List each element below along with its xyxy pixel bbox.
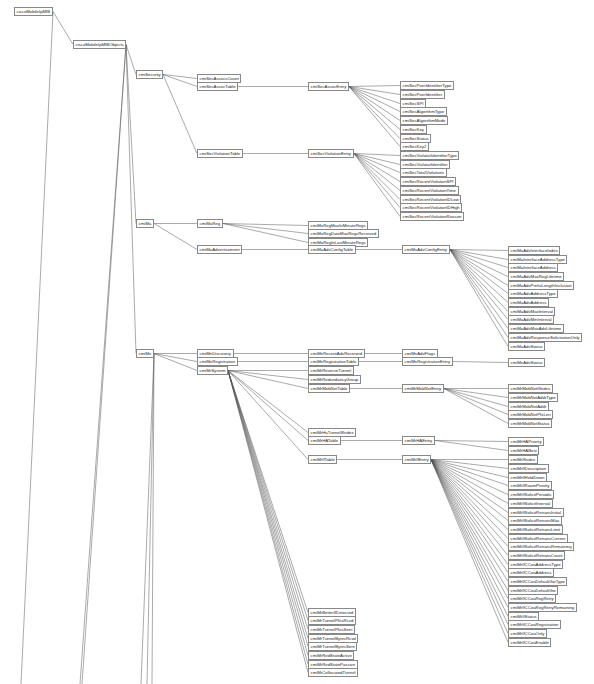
- tree-edge: [431, 460, 508, 565]
- tree-node-i5: cmiMrIfSolicitPeriodic: [508, 490, 554, 499]
- tree-edge: [444, 389, 508, 424]
- tree-node-advEntry: cmiMaAdvConfigEntry: [402, 245, 450, 254]
- tree-node-maReg: cmiMaReg: [197, 219, 223, 228]
- tree-node-s9: cmiMrTunnelPktsSent: [308, 625, 355, 634]
- tree-edge: [228, 371, 308, 433]
- tree-node-i11: cmiMrIfSolicitRetransRemaining: [508, 542, 574, 551]
- tree-node-i1: cmiMrIfIndex: [508, 455, 538, 464]
- tree-edge: [450, 250, 508, 347]
- tree-edge: [431, 460, 508, 556]
- tree-edge: [53, 12, 73, 45]
- tree-node-a8: cmiSecKey2: [400, 142, 429, 151]
- tree-edge: [450, 250, 508, 251]
- tree-node-a1: cmiSecPeerIdentifierType: [400, 81, 454, 90]
- tree-node-ad4: cmiMaAdvMaxRegLifetime: [508, 272, 564, 281]
- tree-edge: [82, 45, 126, 684]
- tree-node-h2: cmiMrHABest: [508, 446, 539, 455]
- mib-tree-diagram: ciscoMobileIpMIBciscoMobileIpMIBObjectsc…: [0, 0, 594, 684]
- tree-node-ma: cmiMa: [136, 219, 154, 228]
- tree-node-a5: cmiSecAlgorithmMode: [400, 116, 448, 125]
- tree-edge: [228, 371, 308, 647]
- tree-edge: [431, 460, 508, 599]
- tree-node-m4: cmiMrMobNetPfxLen: [508, 410, 553, 419]
- tree-node-ad1: cmiMaAdvInterfaceIndex: [508, 246, 560, 255]
- tree-node-i17: cmiMrIfCCoaRegRetry: [508, 594, 556, 603]
- tree-edge: [163, 75, 197, 154]
- tree-edge: [450, 250, 508, 286]
- tree-node-v3: cmiSecTotalViolations: [400, 168, 447, 177]
- tree-edge: [228, 371, 308, 639]
- tree-edge: [444, 389, 508, 415]
- tree-node-a4: cmiSecAlgorithmType: [400, 107, 447, 116]
- tree-edge: [228, 371, 308, 441]
- tree-node-v7: cmiSecRecentViolationIDHigh: [400, 203, 462, 212]
- tree-node-v4: cmiSecRecentViolationSPI: [400, 177, 456, 186]
- tree-node-s6: cmiMrIfTable: [308, 455, 337, 464]
- tree-node-mnSys: cmiMrSystem: [197, 366, 228, 375]
- tree-edge: [431, 460, 508, 643]
- tree-edge: [450, 250, 508, 312]
- tree-node-root: ciscoMobileIpMIB: [14, 7, 53, 16]
- tree-edge: [431, 460, 508, 495]
- tree-edge: [450, 250, 508, 320]
- tree-edge: [80, 45, 126, 684]
- tree-node-violEntry: cmiSecViolationEntry: [308, 149, 354, 158]
- tree-edge: [228, 371, 308, 621]
- tree-edge: [354, 154, 400, 182]
- tree-edge: [450, 250, 508, 294]
- tree-node-s2: cmiMrRedundancyGroup: [308, 375, 361, 384]
- tree-node-sec: cmiSecurity: [136, 70, 163, 79]
- tree-edge: [435, 441, 508, 442]
- tree-node-ad10: cmiMaAdvMaxAdvLifetime: [508, 324, 564, 333]
- tree-node-i14: cmiMrIfCCoaAddress: [508, 568, 554, 577]
- tree-node-v1: cmiSecViolatorIdentifierType: [400, 151, 459, 160]
- tree-edge: [354, 154, 400, 208]
- tree-edge: [453, 362, 508, 363]
- tree-node-objs: ciscoMobileIpMIBObjects: [73, 40, 126, 49]
- tree-node-advTable: cmiMaAdvConfigTable: [308, 245, 356, 254]
- tree-node-h1: cmiMrHAPriority: [508, 437, 544, 446]
- tree-node-ad6: cmiMaAdvAddressType: [508, 289, 558, 298]
- tree-node-m1: cmiMrMobNetIfIndex: [508, 384, 553, 393]
- tree-edge: [349, 87, 400, 147]
- tree-node-s11: cmiMrTunnelBytesSent: [308, 642, 357, 651]
- tree-edge: [444, 389, 508, 407]
- tree-node-i18: cmiMrIfCCoaRegRetryRemaining: [508, 603, 577, 612]
- tree-edge: [435, 441, 508, 451]
- tree-node-ad9: cmiMaAdvMinInterval: [508, 315, 554, 324]
- tree-edge: [450, 250, 508, 260]
- tree-edge: [450, 250, 508, 303]
- tree-node-i8: cmiMrIfSolicitRetransMax: [508, 516, 562, 525]
- tree-node-mn: cmiMn: [136, 349, 154, 358]
- tree-node-a2: cmiSecPeerIdentifier: [400, 90, 445, 99]
- tree-node-i22: cmiMrIfCCoaEnable: [508, 638, 551, 647]
- tree-edge: [349, 87, 400, 121]
- tree-edge: [431, 460, 508, 591]
- tree-node-haEntry: cmiMrHAEntry: [402, 436, 435, 445]
- tree-node-m2: cmiMrMobNetAddrType: [508, 393, 558, 402]
- tree-edge: [21, 12, 53, 684]
- tree-edge: [228, 371, 308, 613]
- tree-edge: [431, 460, 508, 617]
- tree-edge: [431, 460, 508, 573]
- tree-node-m5: cmiMrMobNetStatus: [508, 419, 552, 428]
- tree-edges: [0, 0, 594, 684]
- tree-node-mnRegTable: cmiMnRegistrationTable: [308, 357, 359, 366]
- tree-node-mnRegEntry: cmiMnRegistrationEntry: [402, 357, 453, 366]
- tree-edge: [154, 224, 197, 250]
- tree-node-s5: cmiMrHATable: [308, 436, 341, 445]
- tree-edge: [228, 371, 308, 630]
- tree-node-s12: cmiMrRedStateActive: [308, 651, 354, 660]
- tree-edge: [354, 154, 400, 200]
- tree-node-v5: cmiSecRecentViolationTime: [400, 186, 459, 195]
- tree-edge: [431, 460, 508, 634]
- tree-node-r2: cmiMaRegDateMaxRegsReceived: [308, 229, 379, 238]
- tree-node-s3: cmiMrMobNetTable: [308, 384, 350, 393]
- tree-edge: [154, 354, 197, 362]
- tree-edge: [431, 460, 508, 582]
- tree-node-i9: cmiMrIfSolicitRetransLimit: [508, 525, 563, 534]
- tree-edge: [223, 224, 308, 243]
- tree-node-s1: cmiMrReverseTunnel: [308, 366, 354, 375]
- tree-node-a6: cmiSecKey: [400, 125, 427, 134]
- tree-edge: [431, 460, 508, 530]
